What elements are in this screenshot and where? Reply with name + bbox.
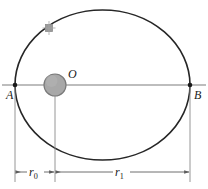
label-center-body: O bbox=[68, 68, 77, 80]
label-distance-r0-subscript: 0 bbox=[34, 172, 38, 181]
point-b-marker bbox=[188, 83, 193, 88]
label-distance-r0: r0 bbox=[29, 166, 38, 178]
label-point-a: A bbox=[6, 89, 13, 101]
point-a-marker bbox=[13, 83, 18, 88]
orbit-diagram-canvas bbox=[0, 0, 208, 189]
label-point-b: B bbox=[194, 89, 201, 101]
label-distance-r1-symbol: r bbox=[115, 165, 120, 179]
central-body-highlight bbox=[46, 75, 58, 87]
label-distance-r0-symbol: r bbox=[29, 165, 34, 179]
label-distance-r1: r1 bbox=[115, 166, 124, 178]
label-distance-r1-subscript: 1 bbox=[120, 172, 124, 181]
orbit-diagram-figure: A B O r0 r1 bbox=[0, 0, 208, 189]
